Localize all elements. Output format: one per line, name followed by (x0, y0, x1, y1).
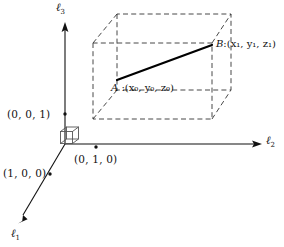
axis-label-l2: ℓ2 (266, 135, 275, 149)
figure-root: ℓ3 ℓ2 ℓ1 (0, 0, 1) (0, 1, 0) (1, 0, 0) A… (0, 0, 284, 247)
point-a-coords: (x₀, y₀, z₀) (125, 82, 174, 93)
basis-label-001: (0, 0, 1) (7, 109, 50, 120)
axis-l1-line (18, 144, 65, 224)
axis-label-l2-sub: 2 (271, 141, 275, 149)
basis-label-100: (1, 0, 0) (3, 168, 46, 179)
basis-marker-010 (94, 145, 97, 148)
axis-l3-line (62, 22, 69, 144)
axis-label-l1-sub: 1 (16, 234, 20, 242)
axis-label-l1: ℓ1 (11, 228, 20, 242)
axis-label-l3: ℓ3 (56, 2, 65, 16)
basis-label-010: (0, 1, 0) (74, 154, 117, 165)
segment-ab (117, 45, 212, 80)
axes-group (18, 22, 262, 224)
point-b-label: B:(x₁, y₁, z₁) (216, 39, 276, 49)
origin-unit-cube (61, 127, 79, 144)
dashed-bounding-box (93, 14, 231, 119)
basis-marker-100 (48, 172, 51, 175)
axis-label-l3-sub: 3 (61, 8, 65, 16)
basis-marker-001 (63, 112, 66, 115)
point-b-coords: (x₁, y₁, z₁) (227, 38, 276, 49)
point-a-label: A :(x₀, y₀, z₀) (111, 83, 174, 93)
